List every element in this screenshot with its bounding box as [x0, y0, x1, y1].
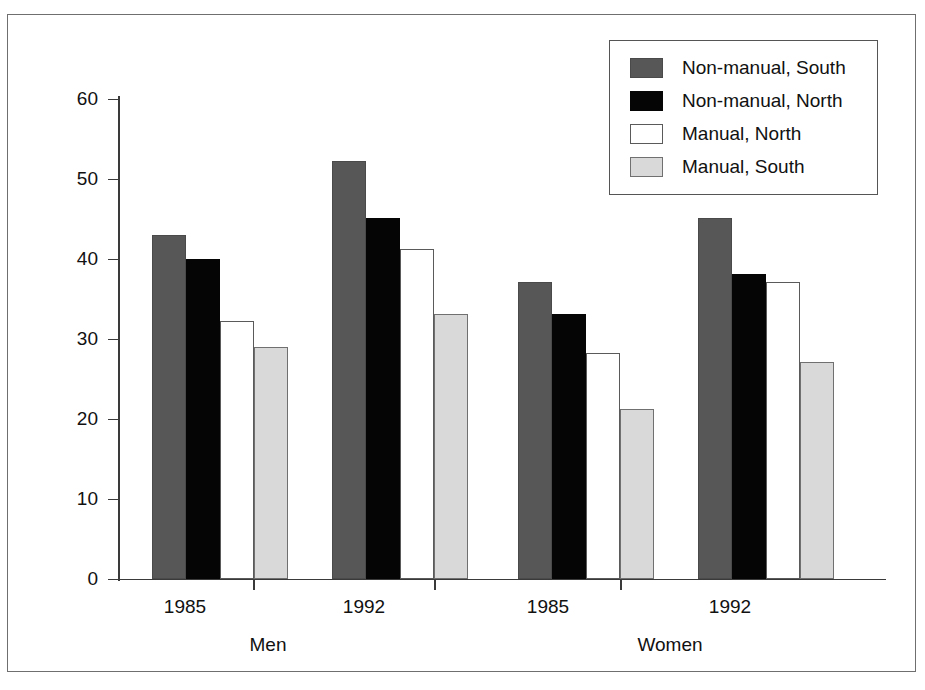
bar-women-1992-non-manual-north: [732, 274, 766, 579]
bar-men-1992-non-manual-north: [366, 218, 400, 579]
legend-item-manual-north[interactable]: Manual, North: [610, 117, 877, 150]
legend-label-manual-north: Manual, North: [682, 123, 801, 145]
bar-women-1985-manual-south: [620, 409, 654, 579]
y-tick-30: [108, 339, 118, 341]
bar-women-1992-manual-south: [800, 362, 834, 579]
y-tick-50: [108, 179, 118, 181]
bar-women-1985-manual-north: [586, 353, 620, 579]
bar-women-1992-manual-north: [766, 282, 800, 579]
x-tick-2: [434, 579, 436, 590]
light-gray-swatch-icon: [630, 157, 663, 177]
y-tick-label-0: 0: [58, 568, 98, 590]
x-group-label-men: Men: [168, 634, 368, 656]
legend-label-non-manual-north: Non-manual, North: [682, 90, 843, 112]
bar-men-1985-manual-north: [220, 321, 254, 579]
bar-men-1992-manual-south: [434, 314, 468, 579]
y-tick-label-60: 60: [58, 88, 98, 110]
x-label-men-1992: 1992: [294, 596, 434, 618]
legend-item-non-manual-north[interactable]: Non-manual, North: [610, 84, 877, 117]
bar-women-1992-non-manual-south: [698, 218, 732, 579]
y-tick-label-50: 50: [58, 168, 98, 190]
bar-men-1992-manual-north: [400, 249, 434, 579]
y-tick-label-10: 10: [58, 488, 98, 510]
x-group-label-women: Women: [570, 634, 770, 656]
x-tick-3: [620, 579, 622, 590]
legend-item-non-manual-south[interactable]: Non-manual, South: [610, 51, 877, 84]
x-label-men-1985: 1985: [115, 596, 255, 618]
x-tick-1: [253, 579, 255, 590]
chart-figure: 60 50 40 30 20 10 0 % adults 1985 1992 1…: [0, 0, 925, 690]
bar-women-1985-non-manual-north: [552, 314, 586, 579]
y-tick-label-20: 20: [58, 408, 98, 430]
black-swatch-icon: [630, 91, 663, 111]
y-tick-40: [108, 259, 118, 261]
y-tick-60: [108, 99, 118, 101]
dark-gray-swatch-icon: [630, 58, 663, 78]
y-tick-10: [108, 499, 118, 501]
x-label-women-1985: 1985: [478, 596, 618, 618]
chart-legend: Non-manual, South Non-manual, North Manu…: [609, 40, 878, 195]
white-swatch-icon: [630, 124, 663, 144]
y-tick-label-40: 40: [58, 248, 98, 270]
bar-men-1985-non-manual-north: [186, 259, 220, 579]
bar-women-1985-non-manual-south: [518, 282, 552, 579]
legend-label-non-manual-south: Non-manual, South: [682, 57, 846, 79]
x-label-women-1992: 1992: [660, 596, 800, 618]
bar-men-1992-non-manual-south: [332, 161, 366, 579]
y-tick-20: [108, 419, 118, 421]
legend-item-manual-south[interactable]: Manual, South: [610, 150, 877, 183]
bar-men-1985-non-manual-south: [152, 235, 186, 579]
y-tick-0: [108, 579, 118, 581]
y-axis-title: % adults: [0, 233, 2, 298]
bar-men-1985-manual-south: [254, 347, 288, 579]
y-tick-label-30: 30: [58, 328, 98, 350]
legend-label-manual-south: Manual, South: [682, 156, 805, 178]
